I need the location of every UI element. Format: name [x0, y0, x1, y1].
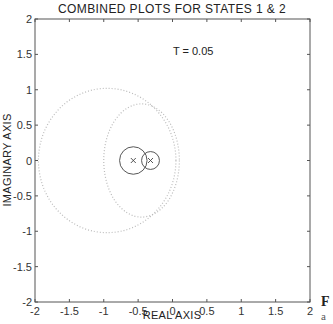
x-marker-icon [148, 158, 153, 163]
plot-series [38, 88, 179, 232]
y-tick-label: 1.5 [17, 48, 32, 60]
x-tick-label: -1 [99, 305, 109, 317]
x-tick-label: 1.5 [268, 305, 283, 317]
annotation-t-value: T = 0.05 [173, 45, 213, 57]
chart: COMBINED PLOTS FOR STATES 1 & 2 -2-1.5-1… [0, 0, 333, 324]
y-tick-label: 0 [26, 155, 32, 167]
x-tick-label: 0.5 [199, 305, 214, 317]
y-tick-label: 0.5 [17, 119, 32, 131]
y-tick-label: -0.5 [13, 190, 32, 202]
plot-frame [35, 19, 310, 302]
x-tick-label: 1 [238, 305, 244, 317]
caption-fragment-sub: a [321, 310, 326, 322]
x-axis-label: REAL AXIS [143, 309, 202, 321]
x-axis-ticks: -2-1.5-1-0.500.511.52 [30, 19, 313, 317]
y-tick-label: -1.5 [13, 261, 32, 273]
x-tick-label: -1.5 [60, 305, 79, 317]
y-tick-label: 2 [26, 13, 32, 25]
y-axis-ticks: 21.510.50-0.5-1-1.5-2 [13, 13, 310, 308]
caption-fragment: F [321, 294, 330, 309]
y-tick-label: -1 [22, 225, 32, 237]
x-tick-label: 2 [307, 305, 313, 317]
y-tick-label: 1 [26, 84, 32, 96]
chart-title: COMBINED PLOTS FOR STATES 1 & 2 [58, 2, 286, 16]
y-tick-label: -2 [22, 296, 32, 308]
x-marker-icon [131, 158, 136, 163]
y-axis-label: IMAGINARY AXIS [1, 113, 13, 206]
dotted-locus [38, 88, 176, 232]
